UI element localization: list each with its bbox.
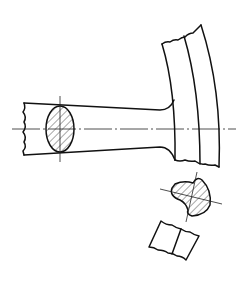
- technical-drawing: [0, 0, 246, 288]
- break-line-top: [162, 25, 201, 44]
- break-line-bottom: [175, 160, 219, 167]
- removed-section-rim-piece: [149, 221, 199, 260]
- rim: [162, 25, 219, 167]
- removed-section-hatched: [160, 172, 222, 222]
